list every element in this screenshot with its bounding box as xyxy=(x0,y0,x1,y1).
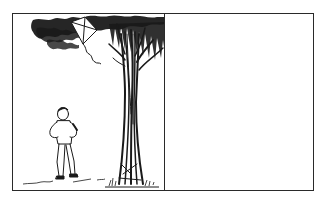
ground-line xyxy=(23,179,105,184)
panel-1 xyxy=(12,13,165,191)
panel-2 xyxy=(164,13,314,191)
comic-strip xyxy=(12,13,314,193)
tree-foliage xyxy=(31,15,165,60)
boy xyxy=(50,107,78,179)
panel-1-illustration xyxy=(13,14,166,192)
